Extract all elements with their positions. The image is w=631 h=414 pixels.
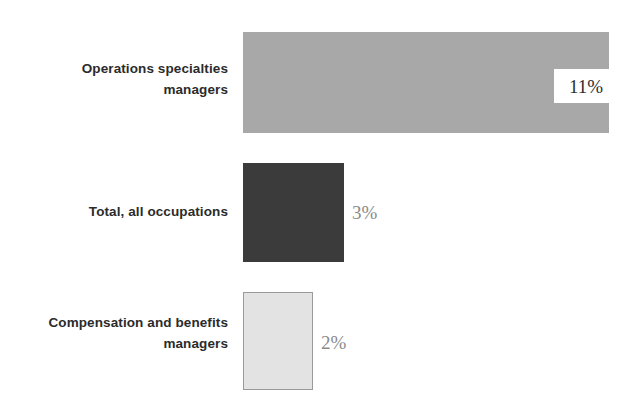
category-label-total-all-occupations: Total, all occupations xyxy=(0,201,228,222)
category-label-operations-specialties-managers: Operations specialties managers xyxy=(0,58,228,100)
bar-total-all-occupations xyxy=(243,163,344,262)
bar-chart: Operations specialties managers Total, a… xyxy=(0,0,631,414)
bar-compensation-and-benefits-managers xyxy=(243,292,313,390)
value-label-compensation-and-benefits-managers: 2% xyxy=(321,333,346,352)
category-label-compensation-and-benefits-managers: Compensation and benefits managers xyxy=(0,312,228,354)
value-label-total-all-occupations: 3% xyxy=(352,203,377,222)
value-label-box-operations-specialties-managers: 11% xyxy=(554,69,618,103)
value-label-operations-specialties-managers: 11% xyxy=(569,77,603,96)
